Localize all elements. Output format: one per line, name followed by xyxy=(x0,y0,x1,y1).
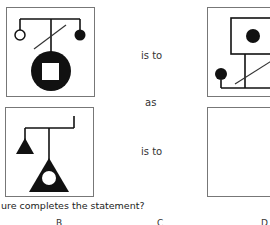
figure-3-drawing xyxy=(6,108,95,198)
white-circle-icon xyxy=(42,171,56,185)
answer-panel-empty xyxy=(207,107,270,197)
question-text: ure completes the statement? xyxy=(1,200,145,211)
option-c-label[interactable]: C xyxy=(157,218,163,225)
small-triangle-icon xyxy=(16,138,34,154)
relation-label-2: is to xyxy=(141,146,162,157)
option-d-label[interactable]: D xyxy=(261,218,268,225)
filled-circle-icon xyxy=(75,30,86,41)
relation-label-1: is to xyxy=(141,50,162,61)
figure-panel-3 xyxy=(5,107,94,197)
filled-circle-icon xyxy=(246,29,260,43)
small-filled-circle-icon xyxy=(215,68,227,80)
white-square-icon xyxy=(42,63,59,80)
option-b-label[interactable]: B xyxy=(56,218,62,225)
figure-2-drawing xyxy=(208,8,270,98)
figure-panel-1 xyxy=(6,7,95,97)
hollow-circle-icon xyxy=(15,30,25,40)
figure-panel-2 xyxy=(207,7,270,97)
figure-1-drawing xyxy=(7,8,96,98)
connector-label: as xyxy=(145,97,156,108)
